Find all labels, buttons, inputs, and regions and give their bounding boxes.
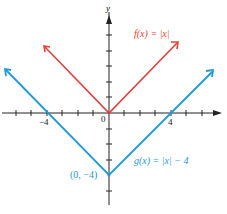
point-label: (0, −4) <box>70 169 97 180</box>
graph <box>0 0 227 214</box>
tick-4: 4 <box>168 117 173 127</box>
f-series <box>44 42 178 113</box>
tick-neg4: −4 <box>39 117 49 127</box>
g-label: g(x) = |x| − 4 <box>134 155 189 166</box>
tick-0: 0 <box>101 114 106 124</box>
y-axis-label: y <box>106 3 110 13</box>
f-label: f(x) = |x| <box>134 28 170 39</box>
